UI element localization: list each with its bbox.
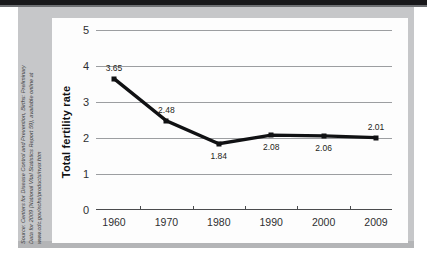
data-point-marker — [321, 133, 326, 138]
x-axis-tick-label: 1990 — [260, 216, 283, 228]
source-citation-line-2: Data for 2009 (National Vital Statistics… — [28, 18, 36, 244]
y-axis-tick-label: 2 — [83, 132, 89, 144]
chart-screenshot: Source: Centers for Disease Control and … — [0, 0, 427, 262]
y-axis-title: Total fertility rate — [59, 72, 73, 192]
data-point-label: 3.65 — [106, 63, 123, 73]
plot-area: 012345 196019701980199020002009 3.652.48… — [96, 30, 392, 210]
data-point-label: 2.48 — [158, 105, 175, 115]
y-axis-tick-label: 0 — [83, 204, 89, 216]
data-point-marker — [216, 141, 221, 146]
data-point-label: 2.06 — [315, 143, 332, 153]
x-axis-tick-label: 1960 — [102, 216, 125, 228]
data-point-label: 2.01 — [368, 122, 385, 132]
x-axis-tick-label: 2009 — [364, 216, 387, 228]
y-axis-tick-label: 4 — [83, 60, 89, 72]
data-point-marker — [112, 76, 117, 81]
source-citation: Source: Centers for Disease Control and … — [20, 18, 52, 244]
x-axis-tick-label: 2000 — [312, 216, 335, 228]
source-citation-line-3: www.cdc.gov/nchs/products/nvsr.htm — [36, 18, 44, 244]
data-point-marker — [374, 135, 379, 140]
data-point-marker — [164, 118, 169, 123]
y-axis-tick-label: 5 — [83, 24, 89, 36]
x-axis-tick-label: 1980 — [207, 216, 230, 228]
source-citation-line-1: Source: Centers for Disease Control and … — [20, 18, 28, 244]
data-point-label: 1.84 — [211, 151, 228, 161]
y-axis-tick-label: 3 — [83, 96, 89, 108]
x-axis-tick-label: 1970 — [155, 216, 178, 228]
y-axis-tick-label: 1 — [83, 168, 89, 180]
data-point-label: 2.08 — [263, 142, 280, 152]
data-point-marker — [269, 133, 274, 138]
fertility-rate-line — [96, 30, 392, 210]
